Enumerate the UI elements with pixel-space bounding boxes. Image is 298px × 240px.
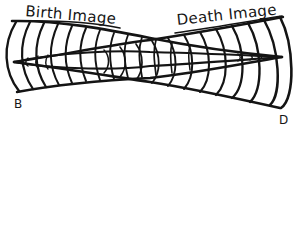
point-b-label: B	[14, 98, 22, 110]
point-d-label: D	[279, 114, 288, 126]
